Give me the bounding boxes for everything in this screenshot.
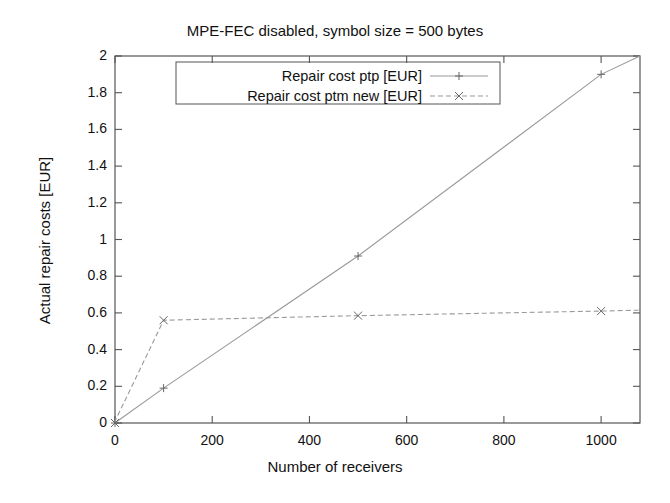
series-ptm-new [111,307,640,427]
data-series-group [111,56,640,427]
legend-label: Repair cost ptm new [EUR] [247,88,422,104]
chart-figure: MPE-FEC disabled, symbol size = 500 byte… [0,0,670,503]
plot-canvas: Repair cost ptp [EUR]Repair cost ptm new… [0,0,670,503]
series-ptp [111,56,640,427]
chart-legend: Repair cost ptp [EUR]Repair cost ptm new… [176,62,500,104]
legend-label: Repair cost ptp [EUR] [282,68,422,84]
